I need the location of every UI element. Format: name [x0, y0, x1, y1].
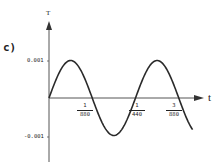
- chart-canvas: [0, 0, 220, 168]
- x-axis-label: t: [208, 92, 211, 103]
- x-tick-label-2: 1 440: [129, 103, 145, 117]
- y-axis-arrow-icon: [46, 21, 52, 30]
- panel-label: c): [3, 42, 16, 53]
- x-tick-label-1: 1 880: [77, 103, 93, 117]
- chart-figure: c) T t 0.001 -0.001 1 880 1 440 3 880: [0, 0, 220, 168]
- x-tick-label-3: 3 880: [166, 103, 182, 117]
- y-tick-label-pos: 0.001: [27, 58, 44, 64]
- x-axis-arrow-icon: [194, 95, 204, 101]
- y-tick-label-neg: -0.001: [24, 134, 44, 140]
- y-axis-label: T: [46, 10, 50, 17]
